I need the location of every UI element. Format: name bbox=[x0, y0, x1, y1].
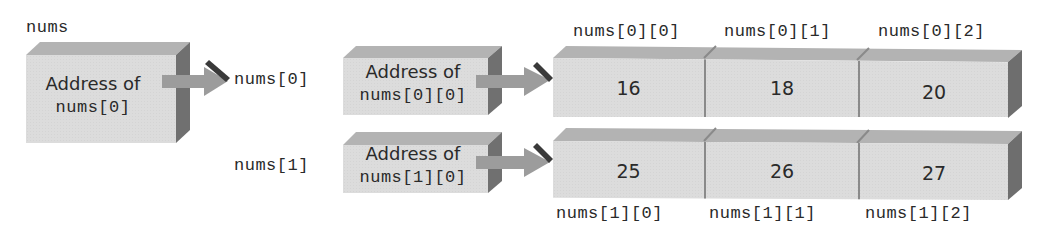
element-label-1-0: nums[1][0] bbox=[556, 204, 663, 223]
data-row-1-faces bbox=[0, 0, 1038, 235]
cell-1-1: 26 bbox=[706, 141, 858, 200]
cell-1-0: 25 bbox=[553, 141, 704, 200]
element-label-1-2: nums[1][2] bbox=[865, 204, 972, 223]
cell-1-2: 27 bbox=[860, 141, 1008, 202]
element-label-1-1: nums[1][1] bbox=[709, 204, 816, 223]
